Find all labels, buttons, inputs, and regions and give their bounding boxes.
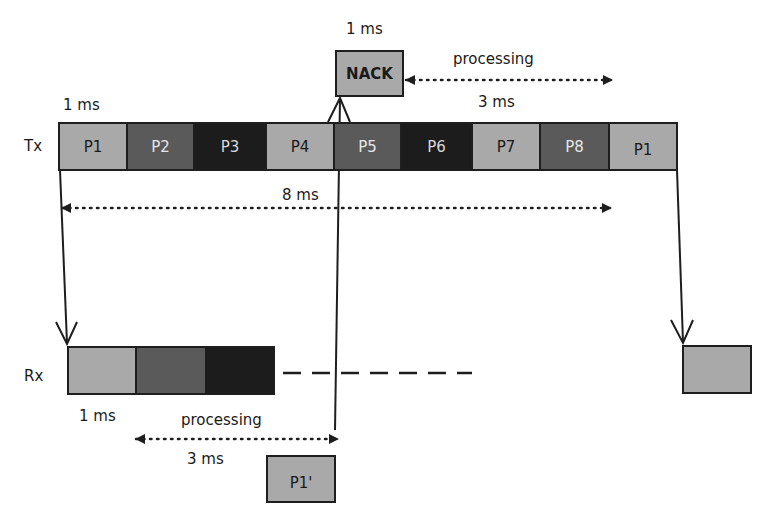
packet-label: P1	[634, 141, 653, 159]
bottom-processing-label: processing	[181, 413, 262, 428]
tx-packet: P5	[335, 124, 402, 169]
top-processing-label: processing	[453, 52, 534, 67]
packet-label: P6	[427, 138, 446, 156]
tx-timeline: P1 P2 P3 P4 P5 P6 P7 P8 P1	[58, 122, 678, 171]
rx-packet	[205, 348, 273, 393]
bottom-processing-duration: 3 ms	[187, 452, 224, 467]
rx-timeline	[67, 346, 275, 395]
nack-box: NACK	[335, 50, 404, 97]
tx-packet: P8	[541, 124, 610, 169]
retransmission-label: P1'	[290, 474, 313, 492]
retransmission-box: P1'	[266, 455, 336, 503]
packet-label: P2	[151, 138, 170, 156]
tx-row-label: Tx	[24, 139, 42, 154]
packet-label: P4	[291, 138, 310, 156]
packet-label: P3	[221, 138, 240, 156]
packet-label: P1	[84, 138, 103, 156]
tx-packet: P1	[610, 124, 676, 169]
rx-duration-label: 1 ms	[79, 409, 116, 424]
tx-packet: P3	[195, 124, 267, 169]
rx-packet	[137, 348, 205, 393]
tx-packet: P6	[402, 124, 473, 169]
rtt-label: 8 ms	[282, 188, 319, 203]
nack-duration-label: 1 ms	[346, 22, 383, 37]
retx-to-rx-arrow	[671, 170, 693, 343]
top-processing-duration: 3 ms	[478, 95, 515, 110]
tx-packet: P1	[60, 124, 128, 169]
tx-to-rx-arrow	[56, 170, 77, 344]
rx-packet	[69, 348, 137, 393]
rx-row-label: Rx	[24, 369, 43, 384]
packet-label: P5	[358, 138, 377, 156]
packet-label: P8	[565, 138, 584, 156]
tx-packet: P2	[128, 124, 195, 169]
rx-retransmit-box	[682, 345, 752, 394]
tx-packet: P7	[473, 124, 541, 169]
nack-label: NACK	[346, 65, 393, 83]
tx-duration-label: 1 ms	[63, 98, 100, 113]
tx-packet: P4	[267, 124, 335, 169]
packet-label: P7	[497, 138, 516, 156]
